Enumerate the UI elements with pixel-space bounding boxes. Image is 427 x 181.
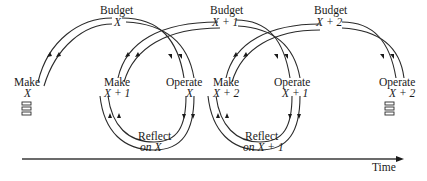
arrow-right-icon	[396, 156, 404, 162]
reflect-x1-var: on X + 1	[243, 141, 284, 153]
budget-x2-var: X + 2	[315, 16, 343, 28]
arrow-down-icon	[274, 54, 278, 59]
arrow-up-icon	[225, 113, 229, 118]
arrow-down-icon	[380, 54, 384, 59]
reflect-labels: Reflect on X Reflect on X + 1	[138, 130, 284, 153]
time-axis-label: Time	[372, 161, 396, 173]
arrow-up-icon	[108, 113, 112, 118]
arrow-down-icon	[288, 114, 292, 119]
arrow-up-icon	[117, 113, 121, 118]
arrow-up-icon	[135, 52, 140, 57]
operate-x1-var: X + 1	[281, 87, 308, 99]
operate-x-var: X	[185, 87, 194, 99]
time-axis: Time	[22, 156, 404, 173]
make-labels: Make X Make X + 1 Make X + 2	[14, 76, 240, 99]
operate-x-label: Operate	[166, 76, 202, 89]
continuation-stack-left	[22, 102, 31, 115]
continuation-stack-right	[385, 102, 394, 115]
arrow-up-icon	[243, 52, 248, 57]
operate-labels: Operate X Operate X + 1 Operate X + 2	[166, 76, 416, 99]
operate-x2-var: X + 2	[388, 87, 416, 99]
arrow-up-icon	[216, 113, 220, 118]
reflect-x-var: on X	[140, 141, 162, 153]
arrow-down-icon	[168, 54, 172, 59]
make-x2-var: X + 2	[212, 87, 240, 99]
arrow-down-icon	[182, 114, 186, 119]
budget-x1-var: X + 1	[211, 16, 238, 28]
budget-x-var: X	[113, 16, 122, 28]
arrow-up-icon	[233, 52, 238, 57]
cycle-x2-arcs	[226, 22, 404, 82]
budget-cycle-diagram: Budget X Budget X + 1 Budget X + 2 Make …	[0, 0, 427, 181]
make-x1-var: X + 1	[103, 87, 130, 99]
make-x-var: X	[23, 87, 32, 99]
